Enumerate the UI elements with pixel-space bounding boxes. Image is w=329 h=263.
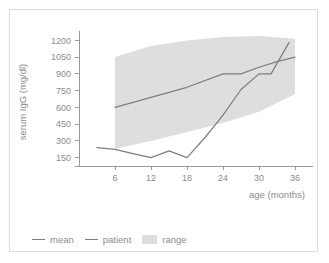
serum-igg-line-chart: 15030045060075090010501200 61218243036 s… <box>10 10 319 253</box>
y-tick-label: 150 <box>56 153 71 163</box>
x-axis-ticks: 61218243036 <box>112 166 300 183</box>
legend-box-icon-range <box>142 235 157 244</box>
y-tick-label: 1200 <box>51 36 71 46</box>
legend-line-icon-patient <box>85 239 98 240</box>
y-tick-label: 300 <box>56 136 71 146</box>
x-tick-label: 30 <box>254 173 264 183</box>
x-tick-label: 18 <box>182 173 192 183</box>
y-axis-title: serum IgG (mg/dl) <box>17 64 28 141</box>
chart-figure-frame: 15030045060075090010501200 61218243036 s… <box>9 9 318 252</box>
legend-item-patient: patient <box>85 232 132 246</box>
chart-plot-area: 15030045060075090010501200 61218243036 s… <box>10 10 319 253</box>
x-tick-label: 12 <box>146 173 156 183</box>
y-tick-label: 450 <box>56 119 71 129</box>
y-tick-label: 600 <box>56 103 71 113</box>
y-axis-ticks: 15030045060075090010501200 <box>51 36 79 163</box>
x-axis-title: age (months) <box>249 189 305 200</box>
y-tick-label: 1050 <box>51 52 71 62</box>
x-tick-label: 6 <box>112 173 117 183</box>
x-tick-label: 24 <box>218 173 228 183</box>
legend-label-patient: patient <box>103 234 132 245</box>
range-band-group <box>115 36 295 149</box>
y-tick-label: 900 <box>56 69 71 79</box>
legend-label-range: range <box>162 234 186 245</box>
x-tick-label: 36 <box>290 173 300 183</box>
range-band-area <box>115 36 295 149</box>
y-tick-label: 750 <box>56 86 71 96</box>
chart-legend: mean patient range <box>32 232 187 246</box>
legend-item-mean: mean <box>32 232 74 246</box>
legend-label-mean: mean <box>50 234 74 245</box>
legend-line-icon-mean <box>32 239 45 240</box>
legend-item-range: range <box>142 232 186 246</box>
